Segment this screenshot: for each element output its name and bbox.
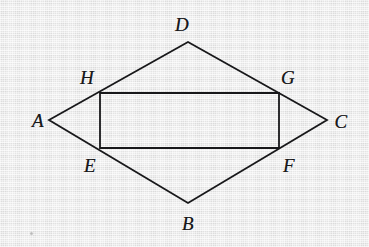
vertex-label-C: C xyxy=(335,112,348,131)
vertex-label-G: G xyxy=(281,68,295,87)
rectangle-outline xyxy=(100,93,279,148)
rectangle-HGFE-path xyxy=(100,93,279,148)
vertex-label-A: A xyxy=(32,111,44,130)
geometry-diagram-svg xyxy=(0,0,369,247)
paper-speck xyxy=(30,232,33,235)
vertex-label-B: B xyxy=(182,214,194,233)
vertex-label-E: E xyxy=(84,156,96,175)
vertex-label-D: D xyxy=(175,15,189,34)
geometry-figure-canvas: A B C D E F G H xyxy=(0,0,369,247)
vertex-label-F: F xyxy=(283,156,295,175)
vertex-label-H: H xyxy=(80,68,94,87)
